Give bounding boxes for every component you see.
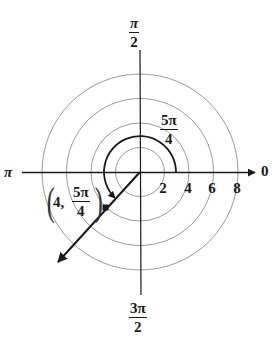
tick-6: 6 xyxy=(208,180,216,197)
label-zero: 0 xyxy=(261,164,269,179)
point-label-r: 4, xyxy=(53,195,64,210)
polar-diagram: π 2 3π 2 π 0 2 4 6 8 5π 4 ( 4, 5π 4 ) xyxy=(0,0,278,344)
polar-plot-graphic xyxy=(0,0,278,344)
tick-4: 4 xyxy=(184,180,192,197)
point-4-5pi-4 xyxy=(103,205,109,211)
point-label-theta: 5π 4 xyxy=(72,185,90,219)
label-pi: π xyxy=(4,165,12,180)
point-label-right-paren: ) xyxy=(95,182,103,222)
tick-2: 2 xyxy=(159,180,167,197)
tick-8: 8 xyxy=(233,180,241,197)
label-arc-5pi-over-4: 5π 4 xyxy=(160,113,178,147)
label-pi-over-2: π 2 xyxy=(129,16,139,50)
label-3pi-over-2: 3π 2 xyxy=(129,301,147,335)
